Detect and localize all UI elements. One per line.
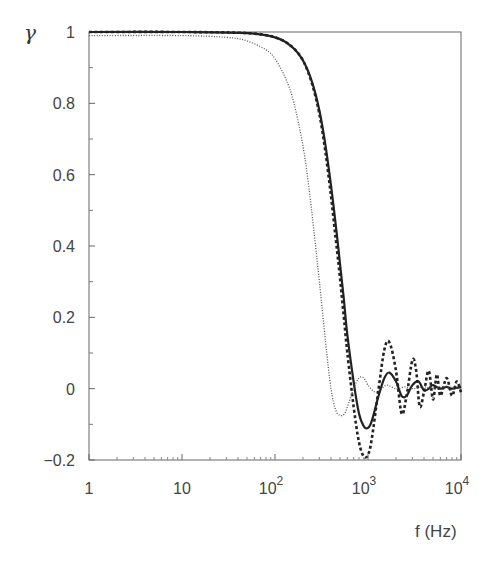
data-series xyxy=(89,32,461,458)
series-solid xyxy=(89,32,461,428)
y-tick-label: 0.8 xyxy=(53,95,75,112)
x-tick-label: 103 xyxy=(352,474,377,497)
y-tick-label: 0.4 xyxy=(53,238,75,255)
y-tick-label: 0 xyxy=(66,381,75,398)
series-dashed xyxy=(89,32,461,458)
y-tick-label: −0.2 xyxy=(43,452,75,469)
y-tick-label: 0.2 xyxy=(53,309,75,326)
x-tick-label: 1 xyxy=(85,480,94,497)
y-tick-label: 1 xyxy=(66,24,75,41)
x-axis-label: f (Hz) xyxy=(415,522,457,541)
chart: 10.80.60.40.20−0.2 110102103104 γ f (Hz) xyxy=(0,0,503,572)
x-tick-label: 102 xyxy=(259,474,284,497)
y-axis-label: γ xyxy=(24,21,36,45)
x-tick-label: 104 xyxy=(445,474,470,497)
x-tick-label: 10 xyxy=(173,480,191,497)
series-dotted xyxy=(89,35,461,415)
y-axis-ticks: 10.80.60.40.20−0.2 xyxy=(43,24,95,469)
y-tick-label: 0.6 xyxy=(53,167,75,184)
